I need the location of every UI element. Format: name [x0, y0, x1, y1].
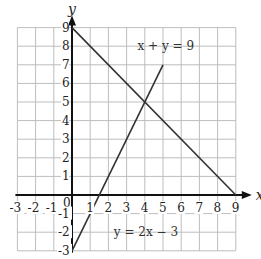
x-tick-label: 8 [214, 201, 222, 215]
y-tick-label: 3 [62, 132, 70, 146]
y-tick-label: 6 [62, 76, 70, 90]
y-tick-label: -1 [58, 207, 70, 221]
x-tick-label: 3 [123, 201, 131, 215]
y-tick-label: 5 [62, 95, 70, 109]
y-axis-label: y [67, 1, 77, 17]
x-tick-label: 4 [141, 201, 149, 215]
y-tick-label: 8 [62, 39, 70, 53]
y-tick-label: 2 [62, 151, 70, 165]
equation-label: y = 2x − 3 [113, 225, 178, 239]
x-tick-label: 9 [232, 201, 240, 215]
x-tick-label: -3 [9, 201, 21, 215]
x-tick-label: 2 [104, 201, 112, 215]
x-tick-label: 7 [195, 201, 203, 215]
x-axis-label: x [256, 187, 261, 203]
equation-label: x + y = 9 [138, 39, 195, 53]
y-tick-label: 4 [62, 114, 70, 128]
x-tick-label: 5 [159, 201, 167, 215]
y-tick-label: 1 [62, 169, 70, 183]
y-tick-label: -2 [58, 225, 70, 239]
coordinate-plane: xy x + y = 9y = 2x − 3 -3-2-10123456789-… [0, 0, 261, 259]
y-tick-label: -3 [58, 244, 70, 258]
y-tick-label: 9 [62, 21, 70, 35]
x-tick-label: -2 [28, 201, 40, 215]
x-tick-label: 1 [86, 201, 94, 215]
y-tick-label: 7 [62, 58, 70, 72]
x-axis-arrow-icon [242, 191, 252, 199]
x-tick-label: 6 [177, 201, 185, 215]
x-tick-label: -1 [46, 201, 58, 215]
